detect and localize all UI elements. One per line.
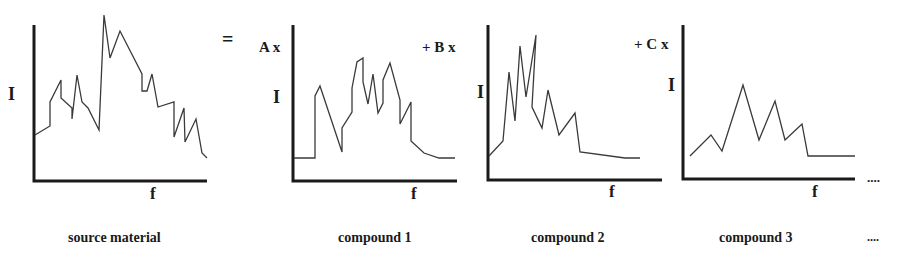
equals-sign: = bbox=[222, 28, 233, 50]
panel-source-material: I f bbox=[8, 15, 207, 203]
caption-compound-2: compound 2 bbox=[531, 230, 605, 246]
caption-ellipsis: .... bbox=[867, 230, 879, 245]
spectrum-curve bbox=[690, 85, 855, 156]
spectrum-curve bbox=[35, 15, 207, 158]
caption-compound-3: compound 3 bbox=[719, 230, 793, 246]
y-axis-label: I bbox=[273, 87, 280, 107]
caption-source-material: source material bbox=[68, 230, 161, 246]
coefficient-a: A x bbox=[259, 39, 281, 55]
x-axis-label: f bbox=[411, 184, 417, 203]
y-axis-label: I bbox=[668, 75, 675, 95]
spectrum-curve bbox=[489, 35, 640, 158]
continuation-ellipsis: .... bbox=[867, 170, 880, 185]
axes bbox=[34, 25, 207, 181]
y-axis-label: I bbox=[477, 82, 484, 102]
coefficient-c: + C x bbox=[634, 36, 669, 52]
x-axis-label: f bbox=[150, 184, 156, 203]
coefficient-b: + B x bbox=[422, 39, 456, 55]
panel-compound-3: I f bbox=[668, 25, 855, 201]
spectrum-curve bbox=[294, 58, 455, 158]
y-axis-label: I bbox=[8, 84, 15, 104]
caption-compound-1: compound 1 bbox=[338, 230, 412, 246]
x-axis-label: f bbox=[609, 182, 615, 201]
x-axis-label: f bbox=[812, 182, 818, 201]
